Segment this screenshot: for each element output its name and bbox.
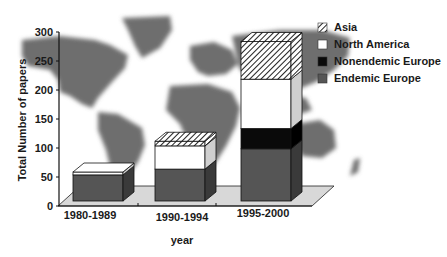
segment-endemic-europe: [241, 149, 291, 201]
segment-north-america: [155, 146, 205, 169]
bar-1995-2000: [241, 33, 302, 202]
x-tick-label: 1995-2000: [237, 207, 290, 219]
y-tick-label: 250: [35, 55, 53, 67]
segment-asia: [241, 42, 291, 80]
x-axis-label: year: [171, 234, 194, 246]
legend-swatch-icon: [318, 23, 327, 32]
y-tick-label: 100: [35, 142, 53, 154]
x-tick-label: 1990-1994: [156, 211, 209, 223]
x-tick-label: 1980-1989: [64, 209, 117, 221]
y-tick-label: 150: [35, 113, 53, 125]
legend-swatch-icon: [318, 40, 327, 49]
segment-north-america: [241, 79, 291, 128]
y-axis-label: Total Number of papers: [16, 59, 28, 182]
chart-canvas: 050100150200250300 1980-19891990-1994199…: [0, 0, 447, 257]
legend-entry: Nonendemic Europe: [334, 55, 441, 67]
legend-entry: Endemic Europe: [334, 72, 421, 84]
x-axis-tick-labels: 1980-19891990-19941995-2000: [64, 207, 290, 223]
y-tick-label: 50: [41, 171, 53, 183]
segment-endemic-europe: [155, 169, 205, 201]
bar-1980-1989: [73, 163, 134, 201]
legend-entry: Asia: [334, 21, 358, 33]
segment-endemic-europe: [73, 175, 123, 201]
bar-1990-1994: [155, 132, 216, 201]
stacked-bar-chart: 050100150200250300 1980-19891990-1994199…: [0, 0, 447, 257]
y-tick-label: 0: [47, 200, 53, 212]
legend-swatch-icon: [318, 74, 327, 83]
y-tick-label: 300: [35, 26, 53, 38]
y-tick-label: 200: [35, 84, 53, 96]
segment-nonendemic-europe: [241, 129, 291, 149]
legend-entry: North America: [334, 38, 410, 50]
legend-swatch-icon: [318, 57, 327, 66]
segment-asia: [155, 141, 205, 146]
segment-north-america: [73, 172, 123, 175]
